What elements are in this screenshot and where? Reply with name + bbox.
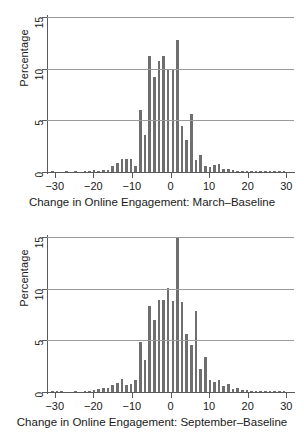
histogram-bar [282,391,287,392]
y-tick-label: 10 [35,69,45,80]
y-tick-label: 15 [35,17,45,28]
chart-panel-september: Percentage Change in Online Engagement: … [0,220,304,440]
x-tick-label: 0 [151,180,191,192]
y-tick-label: 0 [35,172,45,178]
gridline-y-15 [47,17,294,18]
x-tick-10 [209,393,210,398]
x-tick-label: 30 [266,180,304,192]
x-tick--10 [132,393,133,398]
x-tick-20 [248,393,249,398]
x-tick-20 [248,173,249,178]
y-tick-label-wrap: 10 [0,64,40,74]
plot-area-september [47,237,294,392]
histogram-bar [64,171,69,172]
y-tick-label-wrap: 0 [0,167,40,177]
gridline-y-5 [47,340,294,341]
gridline-y-10 [47,69,294,70]
chart-panel-march: Percentage Change in Online Engagement: … [0,0,304,220]
y-tick-label-wrap: 0 [0,387,40,397]
histogram-bar [50,171,55,172]
gridline-y-10 [47,289,294,290]
x-tick-label: −30 [35,180,75,192]
y-tick-label-wrap: 15 [0,232,40,242]
histogram-bar [59,391,64,392]
x-tick-10 [209,173,210,178]
x-tick-label: −20 [73,180,113,192]
x-tick-label: −10 [112,400,152,412]
x-tick-0 [171,173,172,178]
x-tick-30 [286,393,287,398]
y-tick-label-wrap: 15 [0,12,40,22]
x-tick-label: −30 [35,400,75,412]
gridline-y-5 [47,120,294,121]
histogram-bar [73,171,78,172]
y-tick-label: 0 [35,392,45,398]
x-tick-label: 10 [189,400,229,412]
x-tick-label: 20 [228,180,268,192]
x-axis-title-september: Change in Online Engagement: September–B… [0,416,304,428]
histogram-bar [73,391,78,392]
plot-area-march [47,17,294,172]
x-axis-title-march: Change in Online Engagement: March–Basel… [0,196,304,208]
x-tick-label: −20 [73,400,113,412]
x-tick--10 [132,173,133,178]
histogram-bar [282,171,287,172]
x-tick-0 [171,393,172,398]
x-tick-label: 0 [151,400,191,412]
x-tick-label: 20 [228,400,268,412]
x-tick-label: 10 [189,180,229,192]
y-tick-label-wrap: 5 [0,335,40,345]
x-tick-30 [286,173,287,178]
bars-layer-september [47,237,294,392]
x-tick--20 [93,173,94,178]
y-tick-label: 5 [35,340,45,346]
x-tick--20 [93,393,94,398]
x-tick--30 [55,393,56,398]
gridline-y-15 [47,237,294,238]
histogram-figure: Percentage Change in Online Engagement: … [0,0,304,440]
y-tick-label: 15 [35,237,45,248]
y-tick-label: 5 [35,120,45,126]
y-tick-label-wrap: 10 [0,284,40,294]
y-tick-label: 10 [35,289,45,300]
bars-layer-march [47,17,294,172]
y-tick-label-wrap: 5 [0,115,40,125]
x-tick-label: 30 [266,400,304,412]
x-tick-label: −10 [112,180,152,192]
x-tick--30 [55,173,56,178]
